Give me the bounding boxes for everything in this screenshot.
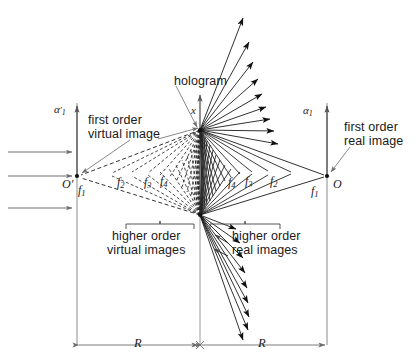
focal-label-right-f4: f4	[228, 176, 236, 191]
first-order-real-rays	[200, 130, 324, 215]
focal-sub: 4	[163, 179, 167, 189]
first-order-virtual-label-line1: first order	[88, 113, 142, 127]
higher-order-real-rays-upper	[200, 130, 291, 212]
focal-label-right-f2: f2	[270, 175, 278, 190]
alpha-prime-subscript: 1	[62, 108, 66, 117]
bracket-higher-order-virtual	[126, 221, 194, 229]
focal-sub: 1	[314, 189, 318, 199]
origin-right-label: O	[333, 178, 342, 191]
focal-sub: 3	[147, 180, 151, 190]
focal-label-right-f3: f3	[245, 175, 253, 190]
bracket-higher-order-real	[210, 221, 280, 229]
origin-left-label: O′	[62, 178, 73, 191]
hologram-ray-diagram: hologram first order virtual image first…	[0, 0, 420, 363]
leader-first-order-real	[331, 147, 350, 172]
alpha-axis-label: α1	[303, 104, 313, 119]
first-order-virtual-rays	[81, 130, 200, 215]
dimension-label-left-R: R	[134, 336, 142, 350]
focal-label-right-f1: f1	[311, 185, 319, 200]
focal-sub: 3	[248, 179, 252, 189]
higher-order-real-label-line2: real images	[232, 243, 298, 257]
higher-order-virtual-label-line2: virtual images	[107, 243, 186, 257]
focal-sub: 4	[231, 180, 235, 190]
focal-label-left-f2: f2	[117, 176, 125, 191]
origin-left-point	[75, 174, 79, 178]
focal-sub: 2	[120, 180, 124, 190]
first-order-virtual-label-line2: virtual image	[88, 127, 160, 141]
x-axis-label: x	[191, 104, 196, 116]
first-order-real-label-line2: real image	[344, 134, 403, 148]
higher-order-virtual-label-line1: higher order	[112, 229, 181, 243]
focal-label-left-f1: f1	[78, 184, 86, 199]
hologram-label: hologram	[174, 74, 227, 88]
dimension-label-right-R: R	[258, 336, 266, 350]
focal-sub: 2	[273, 179, 277, 189]
higher-order-real-label-line1: higher order	[232, 229, 301, 243]
focal-sub: 1	[81, 188, 85, 198]
focal-label-left-f3: f3	[144, 176, 152, 191]
first-order-real-label-line1: first order	[344, 120, 398, 134]
origin-right-point	[325, 174, 329, 178]
alpha-prime-axis-label: α′1	[54, 103, 66, 118]
focal-label-left-f4: f4	[160, 175, 168, 190]
higher-order-virtual-rays-lower	[112, 137, 200, 215]
higher-order-virtual-rays-upper	[112, 130, 200, 210]
alpha-subscript: 1	[309, 109, 313, 118]
